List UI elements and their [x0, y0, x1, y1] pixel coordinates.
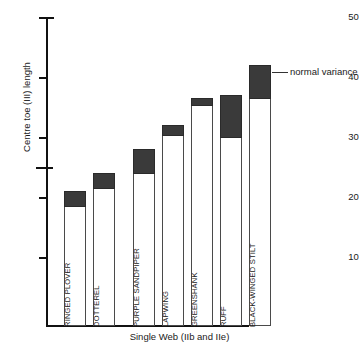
y-tick-50 [39, 17, 54, 19]
y-axis-line [46, 17, 48, 326]
y-tick-label-50: 50 [337, 11, 359, 22]
y-tick-10 [39, 257, 47, 259]
variance-cap-black-winged-stilt [249, 65, 271, 99]
y-tick-label-20: 20 [337, 191, 359, 202]
x-axis-title: Single Web (IIb and IIe) [0, 331, 359, 342]
bar-label-purple-sandpiper: PURPLE SANDPIPER [132, 248, 141, 327]
y-tick-30 [39, 137, 47, 139]
bar-label-black-winged-stilt: BLACK-WINGED STILT [248, 243, 257, 327]
bar-label-greenshank: GREENSHANK [190, 272, 199, 327]
y-tick-25-major [36, 167, 53, 169]
y-tick-label-30: 30 [337, 131, 359, 142]
bar-label-lapwing: LAPWING [161, 291, 170, 327]
y-axis-title: Centre toe (III) length [21, 27, 35, 187]
variance-cap-ruff [220, 95, 242, 138]
bar-chart: 50 40 30 20 10 Centre toe (III) length S… [0, 0, 359, 349]
bar-label-ringed-plover: RINGED PLOVER [63, 263, 72, 327]
variance-cap-purple-sandpiper [133, 149, 155, 174]
y-tick-20 [39, 197, 47, 199]
variance-cap-greenshank [191, 98, 213, 106]
annotation-leader-line [272, 72, 288, 73]
variance-cap-lapwing [162, 125, 184, 136]
bar-label-ruff: RUFF [219, 306, 228, 327]
variance-cap-ringed-plover [64, 191, 86, 207]
bar-ruff [220, 95, 242, 326]
y-tick-label-10: 10 [337, 251, 359, 262]
variance-cap-dotterel [93, 173, 115, 189]
bar-label-dotterel: DOTTEREL [92, 285, 101, 327]
annotation-normal-variance: normal variance [290, 66, 358, 77]
y-tick-40 [39, 77, 47, 79]
